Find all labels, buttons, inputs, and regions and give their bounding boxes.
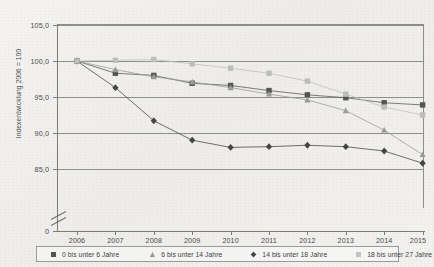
data-point xyxy=(113,58,118,63)
data-point xyxy=(74,58,79,63)
legend-item-3[interactable]: 18 bis unter 27 Jahre xyxy=(351,250,434,259)
data-point xyxy=(151,57,156,62)
data-point xyxy=(305,78,310,83)
legend-item-2[interactable]: 14 bis unter 18 Jahre xyxy=(246,250,329,259)
legend-item-1[interactable]: 6 bis unter 14 Jahre xyxy=(145,250,224,259)
data-point xyxy=(420,152,426,158)
series-0 xyxy=(74,58,425,107)
triangle-marker-icon xyxy=(147,250,158,259)
data-point xyxy=(266,71,271,76)
data-point xyxy=(420,112,425,117)
square-marker-icon xyxy=(48,250,59,259)
data-point xyxy=(189,137,195,144)
data-point xyxy=(228,66,233,71)
square-marker-icon xyxy=(353,250,364,259)
data-point xyxy=(228,144,234,151)
diamond-marker-icon xyxy=(248,250,259,259)
data-point xyxy=(381,148,387,155)
legend-label: 18 bis unter 27 Jahre xyxy=(367,251,432,258)
data-point xyxy=(304,142,310,149)
chart-legend: 0 bis unter 6 Jahre6 bis unter 14 Jahre1… xyxy=(36,246,399,262)
series-layer xyxy=(0,0,434,267)
series-1 xyxy=(74,58,426,157)
chart-container: 105,0 100,0 95,0 90,0 85,0 0 Indexentwic… xyxy=(0,0,434,267)
legend-label: 6 bis unter 14 Jahre xyxy=(161,251,222,258)
data-point xyxy=(190,61,195,66)
legend-item-0[interactable]: 0 bis unter 6 Jahre xyxy=(46,250,121,259)
data-point xyxy=(343,91,348,96)
data-point xyxy=(381,127,387,133)
data-point xyxy=(382,104,387,109)
series-3 xyxy=(74,57,425,118)
data-point xyxy=(343,143,349,150)
data-point xyxy=(420,102,425,107)
data-point xyxy=(305,92,310,97)
legend-label: 14 bis unter 18 Jahre xyxy=(262,251,327,258)
data-point xyxy=(420,160,426,167)
legend-label: 0 bis unter 6 Jahre xyxy=(62,251,119,258)
data-point xyxy=(266,143,272,150)
